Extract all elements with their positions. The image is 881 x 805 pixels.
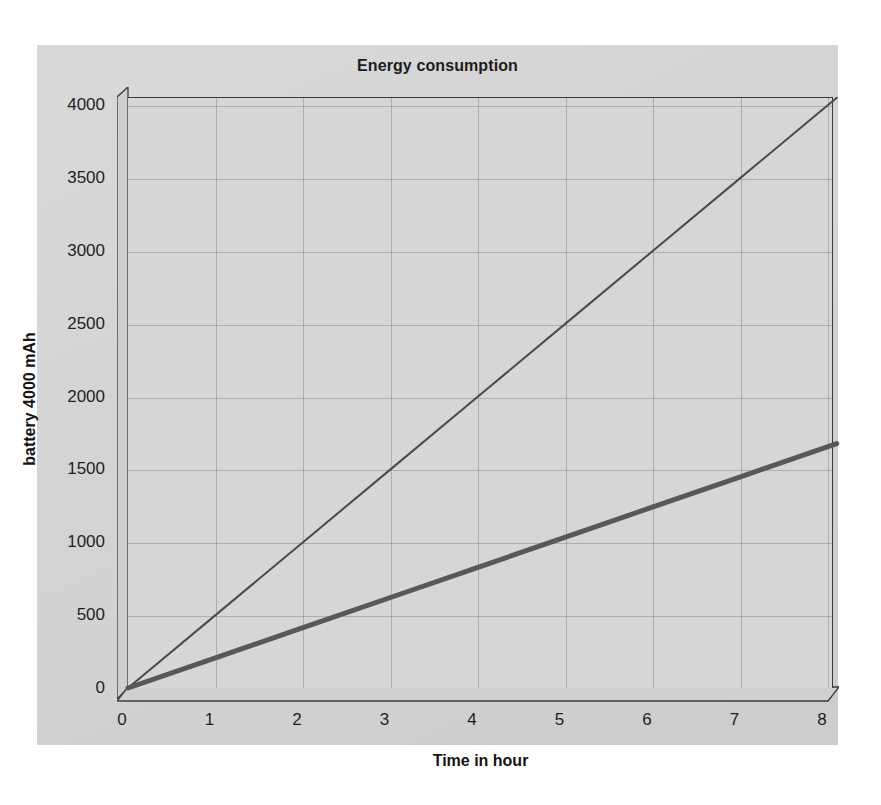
- axis-floor: [117, 686, 839, 704]
- y-axis-ticks: 05001000150020002500300035004000: [0, 0, 113, 805]
- gridline-vertical: [566, 98, 567, 688]
- x-tick-label: 0: [117, 710, 126, 730]
- y-tick-label: 3000: [67, 241, 105, 261]
- chart-title: Energy consumption: [37, 57, 838, 75]
- y-tick-label: 2000: [67, 387, 105, 407]
- y-tick-label: 1000: [67, 532, 105, 552]
- gridline-vertical: [741, 98, 742, 688]
- y-tick-label: 4000: [67, 95, 105, 115]
- plot-area: [128, 97, 833, 688]
- y-axis-title: battery 4000 mAh: [21, 299, 39, 499]
- gridline-vertical: [478, 98, 479, 688]
- x-tick-label: 6: [642, 710, 651, 730]
- gridline-vertical: [303, 98, 304, 688]
- gridline-horizontal: [128, 106, 832, 107]
- y-tick-label: 1500: [67, 459, 105, 479]
- x-tick-label: 1: [205, 710, 214, 730]
- gridline-vertical: [828, 98, 829, 688]
- y-tick-label: 2500: [67, 314, 105, 334]
- gridline-horizontal: [128, 252, 832, 253]
- gridline-horizontal: [128, 179, 832, 180]
- x-axis-title: Time in hour: [128, 752, 833, 770]
- gridline-horizontal: [128, 616, 832, 617]
- gridlines: [128, 98, 832, 688]
- x-tick-label: 2: [292, 710, 301, 730]
- gridline-horizontal: [128, 325, 832, 326]
- x-tick-label: 7: [730, 710, 739, 730]
- gridline-vertical: [391, 98, 392, 688]
- x-tick-label: 4: [467, 710, 476, 730]
- x-tick-label: 3: [380, 710, 389, 730]
- y-tick-label: 0: [96, 678, 105, 698]
- gridline-horizontal: [128, 543, 832, 544]
- y-tick-label: 3500: [67, 168, 105, 188]
- y-tick-label: 500: [77, 605, 105, 625]
- chart-screenshot: Energy consumption 050010001500200025003…: [0, 0, 881, 805]
- gridline-vertical: [653, 98, 654, 688]
- gridline-vertical: [216, 98, 217, 688]
- gridline-horizontal: [128, 398, 832, 399]
- x-tick-label: 8: [817, 710, 826, 730]
- x-tick-label: 5: [555, 710, 564, 730]
- gridline-horizontal: [128, 470, 832, 471]
